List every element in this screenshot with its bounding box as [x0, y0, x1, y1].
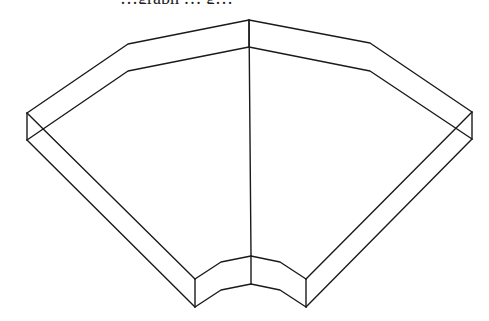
right-side-bottom-edge — [306, 139, 472, 307]
left-side-top-edge — [27, 113, 195, 279]
left-side-bottom-edge — [27, 140, 195, 307]
cable-tray-bend-diagram — [0, 0, 489, 321]
right-side-top-edge — [306, 112, 472, 279]
inner-bottom-edge — [195, 284, 306, 307]
center-seam — [249, 20, 251, 256]
